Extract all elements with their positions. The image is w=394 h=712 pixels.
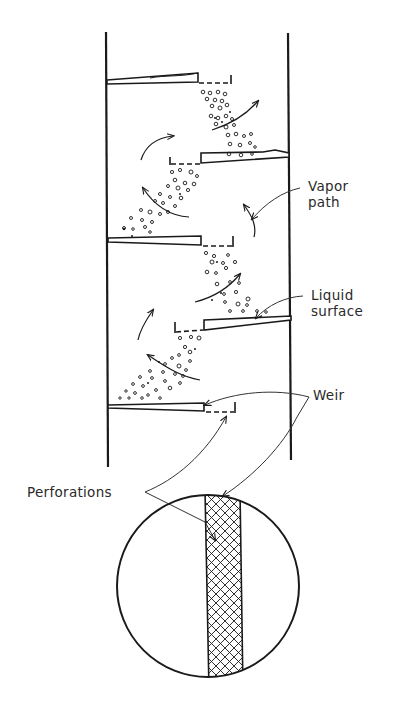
vapor-arrow-3 bbox=[143, 188, 189, 217]
tray-4 bbox=[175, 316, 291, 333]
sieve-tray-column-diagram: Vapor path Liquid surface Weir Perforati… bbox=[0, 0, 394, 712]
vapor-arrow-4 bbox=[244, 205, 255, 237]
perforations-leader-upper bbox=[145, 417, 226, 492]
liquid-surface-leader bbox=[256, 296, 303, 318]
vapor-arrow-6 bbox=[138, 310, 153, 340]
perforated-plate-strip bbox=[205, 490, 243, 690]
tray-3 bbox=[108, 236, 233, 247]
label-liquid-surface-line1: Liquid bbox=[311, 287, 363, 303]
vapor-arrow-7 bbox=[148, 355, 200, 380]
column-walls bbox=[106, 32, 291, 467]
weir-leader-upper bbox=[205, 392, 309, 405]
perforation-detail-circle bbox=[117, 490, 299, 690]
vapor-arrow-5 bbox=[195, 274, 240, 302]
tray-1 bbox=[107, 73, 231, 84]
left-wall bbox=[106, 32, 108, 467]
label-liquid-surface-line2: surface bbox=[311, 303, 363, 319]
vapor-path-leader bbox=[252, 188, 300, 219]
tray-5 bbox=[108, 402, 235, 413]
label-vapor-path-line2: path bbox=[308, 194, 348, 210]
weir-leader-detail bbox=[223, 397, 309, 496]
vapor-arrow-2 bbox=[141, 136, 173, 160]
liquid-droplets-solid bbox=[123, 111, 231, 384]
label-vapor-path: Vapor path bbox=[308, 178, 348, 210]
label-vapor-path-line1: Vapor bbox=[308, 178, 348, 194]
label-weir: Weir bbox=[313, 387, 344, 403]
label-perforations: Perforations bbox=[27, 484, 112, 500]
right-wall bbox=[288, 33, 291, 460]
label-liquid-surface: Liquid surface bbox=[311, 287, 363, 319]
